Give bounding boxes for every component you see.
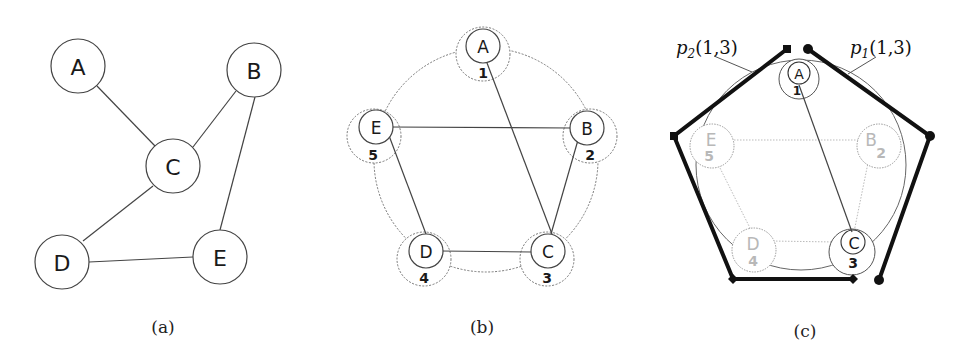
edge-a-c (799, 85, 852, 232)
panel-b: A 1 B 2 C 3 D 4 E 5 (b) (347, 27, 617, 337)
edge-b-e (220, 97, 255, 230)
node-e-faded: E 5 (690, 124, 734, 168)
node-order: 3 (542, 270, 552, 286)
node-label: A (794, 66, 804, 82)
node-order: 1 (478, 65, 488, 81)
node-order: 5 (704, 148, 714, 164)
caption-c: (c) (794, 321, 817, 341)
p1-label: p1(1,3) (850, 37, 912, 61)
edge-d-c (441, 251, 532, 252)
edge-a-c (487, 63, 552, 234)
node-a: A 1 (779, 59, 819, 99)
caption-b: (b) (470, 317, 494, 337)
node-b-faded: B 2 (857, 124, 901, 168)
node-order: 3 (848, 255, 858, 271)
node-label: D (419, 242, 432, 262)
p2-leader-line (714, 56, 752, 72)
node-label: C (542, 242, 554, 262)
node-label: D (746, 234, 759, 254)
edge-a-c (97, 86, 155, 146)
panel-a: A B C D E (a) (35, 39, 281, 337)
path-p1-end-marker (874, 275, 884, 285)
node-label: A (477, 37, 489, 57)
node-c: C 3 (829, 229, 875, 275)
edge-c-d (83, 186, 153, 241)
edge-b-c (193, 91, 236, 147)
node-label: C (165, 155, 180, 180)
node-label: E (213, 246, 227, 271)
edge-b-c (551, 140, 578, 234)
node-label: B (246, 59, 261, 84)
caption-a: (a) (151, 317, 174, 337)
edge-d-e (89, 257, 193, 262)
path-p1-corner-marker (925, 131, 935, 141)
node-b: B (227, 43, 281, 97)
node-label: E (371, 118, 382, 138)
p2-label: p2(1,3) (676, 37, 738, 61)
node-order: 5 (368, 147, 378, 163)
node-c: C (146, 139, 200, 193)
edge-e-d (388, 133, 426, 234)
node-order: 4 (419, 270, 429, 286)
path-p2-corner-marker (670, 132, 678, 140)
path-p2-start-marker (783, 45, 791, 53)
node-label: E (706, 130, 717, 150)
panel-c: B 2 E 5 D 4 A 1 C 3 (670, 37, 935, 341)
node-e: E (193, 230, 247, 284)
node-order: 4 (748, 253, 758, 269)
node-a: A (51, 39, 105, 93)
node-order: 2 (585, 147, 595, 163)
path-p2-end-marker (848, 274, 858, 284)
node-label: B (865, 130, 877, 150)
node-label: A (70, 55, 85, 80)
node-label: C (848, 234, 859, 253)
path-p1-start-marker (803, 44, 813, 54)
node-d-faded: D 4 (732, 228, 776, 272)
edge-e-b (390, 127, 572, 128)
node-d: D (35, 235, 89, 289)
node-label: D (54, 251, 71, 276)
figure-canvas: A B C D E (a) (0, 0, 969, 363)
node-order: 2 (876, 145, 886, 161)
node-label: B (581, 119, 593, 139)
faded-edge-d-c (770, 241, 836, 242)
